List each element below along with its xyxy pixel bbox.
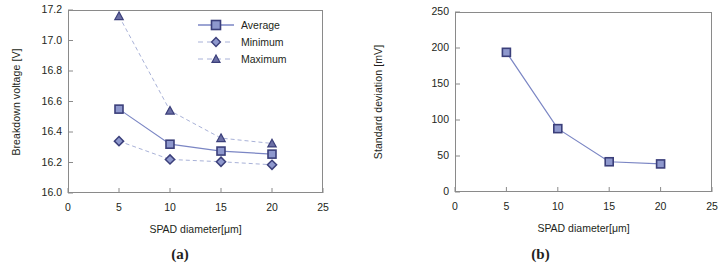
x-tick-label: 0 [435,200,475,212]
figure-container: Breakdown voltage [V] SPAD diameter[μm] … [0,0,721,280]
x-tick-label: 25 [692,200,721,212]
y-tick-label: 150 [407,77,449,89]
x-tick-label: 15 [201,201,241,213]
y-tick-label: 200 [407,41,449,53]
x-tick-label: 10 [538,200,578,212]
chart-panel-b: Standard deviation [mV] SPAD diameter[μm… [360,0,721,280]
y-tick-label: 16.4 [20,125,62,137]
x-tick-label: 25 [303,201,343,213]
y-tick-label: 16.6 [20,95,62,107]
y-tick-label: 16.2 [20,156,62,168]
y-tick-label: 17.2 [20,3,62,15]
legend-item: Average [196,16,287,33]
x-tick-label: 10 [150,201,190,213]
y-tick-label: 50 [407,149,449,161]
x-tick-label: 20 [641,200,681,212]
y-tick-label: 0 [407,185,449,197]
y-tick-label: 100 [407,113,449,125]
legend-label: Minimum [241,36,284,48]
chart-panel-a: Breakdown voltage [V] SPAD diameter[μm] … [0,0,360,280]
x-tick-label: 5 [486,200,526,212]
legend-marker-triangle-icon [196,52,236,66]
x-tick-label: 0 [48,201,88,213]
y-tick-label: 16.0 [20,186,62,198]
y-tick-label: 250 [407,5,449,17]
x-axis-label-b: SPAD diameter[μm] [415,222,721,234]
legend-label: Average [241,19,280,31]
y-tick-label: 16.8 [20,64,62,76]
legend-item: Maximum [196,50,287,67]
x-tick-label: 15 [589,200,629,212]
y-tick-label: 17.0 [20,34,62,46]
legend-a: AverageMinimumMaximum [196,16,287,67]
legend-marker-diamond-icon [196,35,236,49]
legend-label: Maximum [241,53,287,65]
subfigure-caption-b: (b) [360,246,721,263]
x-axis-label-a: SPAD diameter[μm] [28,223,363,235]
subfigure-caption-a: (a) [0,246,360,263]
x-tick-label: 20 [252,201,292,213]
legend-item: Minimum [196,33,287,50]
x-tick-label: 5 [99,201,139,213]
legend-marker-square-icon [196,18,236,32]
